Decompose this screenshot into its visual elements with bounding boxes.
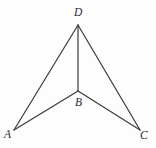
segment-BA bbox=[14, 91, 78, 130]
segment-DA bbox=[14, 25, 78, 130]
segment-DC bbox=[78, 25, 140, 130]
vertex-label-A: A bbox=[4, 129, 11, 141]
vertex-label-B: B bbox=[75, 97, 82, 109]
geometry-canvas bbox=[0, 0, 156, 148]
vertex-label-C: C bbox=[140, 130, 148, 142]
segment-BC bbox=[78, 91, 140, 130]
vertex-label-D: D bbox=[74, 7, 82, 19]
geometry-figure: D A B C bbox=[0, 0, 156, 148]
